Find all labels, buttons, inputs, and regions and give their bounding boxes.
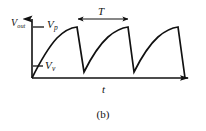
- peak-voltage-label-sub: p: [54, 23, 58, 32]
- period-label: T: [98, 6, 104, 17]
- valley-voltage-label: Vv: [45, 60, 55, 71]
- rectifier-ripple-waveform-figure: Vout Vp Vv T t (b): [0, 0, 206, 131]
- figure-caption: (b): [0, 108, 206, 120]
- y-axis-label-sub: out: [17, 22, 25, 29]
- y-axis-label: Vout: [11, 18, 25, 28]
- valley-voltage-label-sub: v: [52, 64, 55, 73]
- x-axis-label: t: [102, 84, 105, 95]
- valley-voltage-label-main: V: [45, 59, 52, 71]
- peak-voltage-label: Vp: [47, 19, 58, 30]
- peak-voltage-label-main: V: [47, 18, 54, 30]
